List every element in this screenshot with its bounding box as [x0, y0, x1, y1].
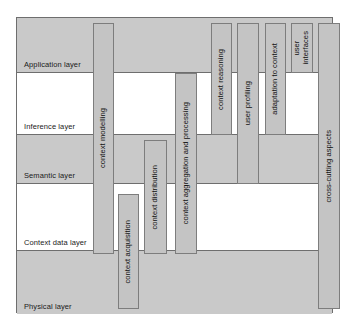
component-label: adaptation to context	[271, 43, 280, 115]
component-label: context acquisition	[124, 220, 133, 284]
layer-label: Physical layer	[24, 302, 72, 311]
layer-label: Semantic layer	[24, 171, 75, 180]
architecture-diagram: Application layerInference layerSemantic…	[0, 0, 351, 330]
layer-label: Context data layer	[24, 238, 87, 247]
component-context-acquisition: context acquisition	[118, 194, 139, 309]
diagram-frame: Application layerInference layerSemantic…	[16, 17, 333, 313]
component-label: cross-cutting aspects	[325, 130, 334, 203]
component-user-interfaces: user interfaces	[291, 23, 313, 73]
component-label: user profiling	[244, 81, 253, 125]
component-cross-cutting-aspects: cross-cutting aspects	[318, 23, 340, 309]
layer-label: Inference layer	[24, 122, 75, 131]
component-context-distribution: context distribution	[144, 140, 167, 254]
component-user-profiling: user profiling	[237, 23, 259, 184]
layer-label: Application layer	[24, 60, 81, 69]
component-label: context reasoning	[217, 49, 226, 110]
component-label: context modelling	[99, 108, 108, 168]
component-label: user interfaces	[293, 31, 310, 65]
component-context-modelling: context modelling	[93, 23, 114, 254]
layer-band: Physical layer	[17, 251, 332, 314]
component-context-aggregation-and-processing: context aggregation and processing	[175, 73, 197, 254]
component-adaptation-to-context: adaptation to context	[265, 23, 286, 135]
component-label: context distribution	[151, 165, 160, 230]
component-context-reasoning: context reasoning	[211, 23, 232, 135]
component-label: context aggregation and processing	[182, 102, 191, 224]
